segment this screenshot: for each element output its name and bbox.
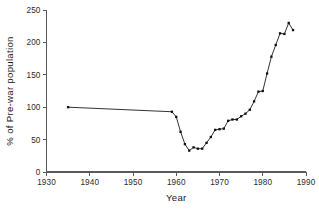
y-tick-label: 100 [27, 103, 41, 112]
x-tick-label: 1960 [167, 178, 186, 187]
data-point-marker [210, 136, 212, 138]
data-point-marker [201, 148, 203, 150]
line-chart: 050100150200250 193019401950196019701980… [0, 0, 319, 213]
data-point-marker [175, 116, 177, 118]
data-point-marker [257, 91, 259, 93]
data-point-marker [223, 127, 225, 129]
data-point-marker [179, 131, 181, 133]
data-point-marker [227, 120, 229, 122]
data-point-marker [275, 44, 277, 46]
y-tick-label: 0 [36, 168, 41, 177]
x-axis-ticks: 1930194019501960197019801990 [37, 172, 315, 187]
data-point-marker [279, 32, 281, 34]
data-point-marker [270, 56, 272, 58]
x-tick-label: 1980 [253, 178, 272, 187]
y-tick-label: 50 [31, 136, 41, 145]
x-tick-label: 1970 [210, 178, 229, 187]
data-point-marker [231, 118, 233, 120]
x-tick-label: 1950 [124, 178, 143, 187]
x-tick-label: 1990 [297, 178, 316, 187]
x-axis-title: Year [166, 192, 187, 203]
y-axis-ticks: 050100150200250 [27, 6, 47, 177]
data-point-marker [288, 22, 290, 24]
data-point-marker [249, 109, 251, 111]
y-tick-label: 250 [27, 6, 41, 15]
chart-container: 050100150200250 193019401950196019701980… [0, 0, 319, 213]
data-point-marker [67, 106, 69, 108]
data-point-marker [266, 72, 268, 74]
y-tick-label: 200 [27, 38, 41, 47]
data-point-marker [214, 129, 216, 131]
data-point-marker [253, 100, 255, 102]
data-point-marker [236, 118, 238, 120]
data-point-marker [240, 115, 242, 117]
data-point-marker [244, 113, 246, 115]
data-point-markers [67, 22, 294, 152]
data-point-marker [262, 90, 264, 92]
data-point-marker [171, 111, 173, 113]
data-point-marker [292, 29, 294, 31]
data-point-marker [188, 149, 190, 151]
x-tick-label: 1940 [80, 178, 99, 187]
data-point-marker [218, 128, 220, 130]
data-point-marker [184, 143, 186, 145]
y-axis-title: % of Pre-war population [4, 36, 15, 145]
data-point-marker [197, 148, 199, 150]
data-point-marker [192, 146, 194, 148]
data-point-marker [205, 142, 207, 144]
y-tick-label: 150 [27, 71, 41, 80]
data-point-marker [283, 33, 285, 35]
x-tick-label: 1930 [37, 178, 56, 187]
